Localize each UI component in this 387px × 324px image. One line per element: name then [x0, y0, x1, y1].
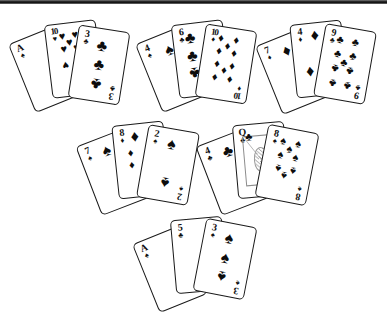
pip: ♠	[292, 151, 300, 163]
pip: ♦	[129, 160, 136, 172]
pip: ♠	[220, 249, 231, 266]
pip: ♦	[127, 148, 134, 160]
pip: ♠	[289, 166, 297, 178]
pip: ♠	[294, 138, 302, 150]
card-corner-suit-icon: ♣	[174, 231, 187, 239]
pip: ♠	[216, 268, 227, 285]
pip: ♣	[186, 47, 198, 64]
pip: ♣	[351, 37, 360, 49]
pip: ♣	[96, 37, 109, 54]
pip: ♣	[348, 50, 357, 62]
pip: ♠	[279, 135, 287, 147]
card-hands-scene: A ♠ 10 ♥ ♥ ♥ ♥ ♥ ♥ ♥ 3 ♣ 3	[0, 0, 387, 324]
pip: ♣	[184, 30, 196, 47]
pip: ♠	[159, 174, 170, 191]
pip: ♣	[93, 56, 106, 73]
pip: ♠	[100, 142, 114, 160]
pip: ♦	[213, 58, 220, 70]
pip: ♠	[280, 170, 288, 182]
card-front-right[interactable]: 2 ♠ 2 ♠ ♠ ♠	[136, 124, 200, 206]
card-front-right[interactable]: 9 ♣ 9 ♣ ♣ ♣ ♣ ♣ ♣ ♣ ♣ ♣ ♣	[313, 23, 377, 105]
pip: ♦	[217, 32, 224, 44]
pip: ♦	[233, 35, 240, 47]
card-corner-top-left: 5 ♣	[174, 222, 187, 239]
pip: ♣	[343, 79, 352, 91]
pip: ♠	[166, 136, 177, 153]
pip: ♦	[229, 60, 236, 72]
pip: ♥	[65, 36, 73, 48]
pip: ♦	[310, 27, 320, 44]
pip: ♣	[331, 63, 340, 75]
pip: ♥	[62, 60, 70, 72]
pip: ♦	[226, 74, 233, 86]
pip: ♠	[223, 230, 234, 247]
pip: ♣	[90, 75, 103, 92]
pip: ♣	[346, 65, 355, 77]
pip: ♦	[224, 40, 231, 52]
scan-band-artifact	[0, 0, 387, 4]
card-corner-top-left: A ♠	[136, 241, 153, 260]
card-corner-top-left: A ♠	[12, 41, 29, 60]
pip: ♠	[285, 144, 293, 156]
pip: ♣	[328, 77, 337, 89]
pip: ♦	[211, 72, 218, 84]
pip: ♣	[245, 131, 253, 143]
card-front-right[interactable]: 10 ♦ 10 ♦ ♦ ♦ ♦ ♦ ♦ ♦ ♦ ♦ ♦ ♦	[195, 23, 258, 104]
pip: ♦	[305, 63, 315, 80]
pip: ♦	[231, 47, 238, 59]
pip: ♦	[215, 45, 222, 57]
pip: ♠	[277, 148, 285, 160]
pip: ♦	[130, 128, 140, 145]
pip: ♣	[336, 34, 345, 46]
card-front-right[interactable]: 3 ♣ 3 ♣ ♣ ♣ ♣	[68, 24, 131, 105]
